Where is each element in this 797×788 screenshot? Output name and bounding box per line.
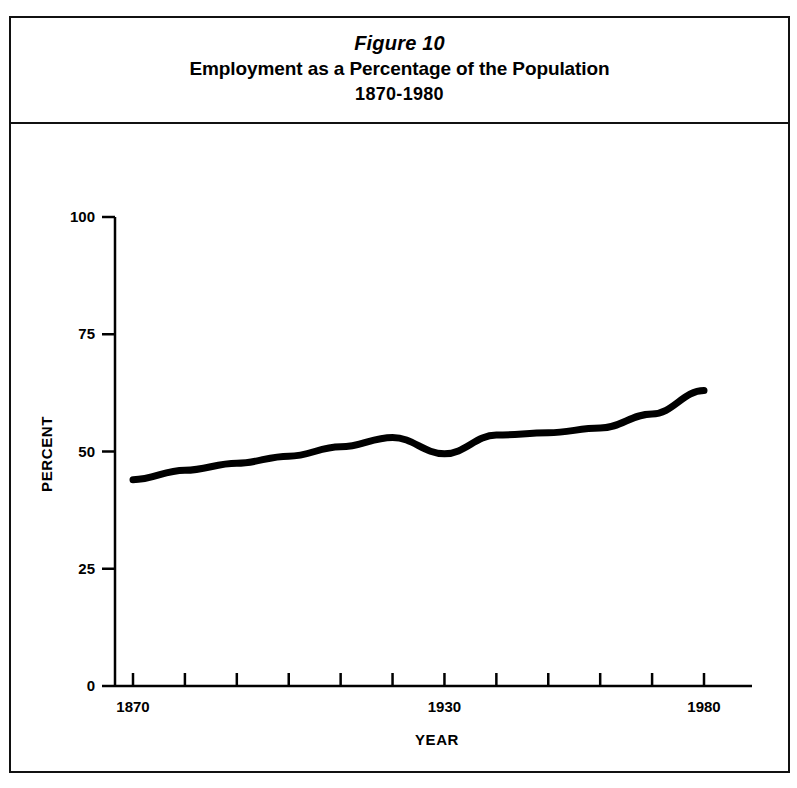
y-tick-label: 25 (78, 560, 95, 577)
figure-subtitle: 1870-1980 (11, 82, 788, 107)
x-axis-ticks (133, 673, 704, 686)
x-tick-label: 1870 (116, 698, 149, 715)
x-axis-title: YEAR (415, 731, 459, 748)
figure-frame: Figure 10 Employment as a Percentage of … (9, 16, 790, 773)
y-axis-ticks (102, 217, 115, 686)
y-axis: 0255075100 PERCENT (38, 208, 115, 694)
y-tick-label: 50 (78, 443, 95, 460)
data-series-line (133, 391, 704, 480)
figure-title-block: Figure 10 Employment as a Percentage of … (11, 18, 788, 124)
x-axis-tick-labels: 187019301980 (116, 698, 720, 715)
x-tick-label: 1930 (428, 698, 461, 715)
y-tick-label: 0 (87, 677, 95, 694)
x-tick-label: 1980 (687, 698, 720, 715)
y-tick-label: 100 (70, 208, 95, 225)
y-tick-label: 75 (78, 325, 95, 342)
figure-number-label: Figure 10 (11, 30, 788, 56)
figure-title: Employment as a Percentage of the Popula… (11, 56, 788, 82)
y-axis-title: PERCENT (38, 416, 55, 492)
chart-plot-area: 0255075100 PERCENT 187019301980 YEAR (11, 124, 788, 773)
x-axis: 187019301980 YEAR (115, 673, 752, 748)
y-axis-tick-labels: 0255075100 (70, 208, 95, 694)
line-chart: 0255075100 PERCENT 187019301980 YEAR (11, 124, 792, 773)
